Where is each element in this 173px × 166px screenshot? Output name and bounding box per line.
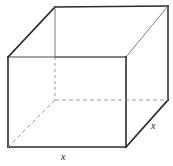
edge-back-top [55,6,168,7]
cube-drawing [0,0,173,166]
edge-bottom-right-diagonal [126,100,168,147]
label-right-edge-x: x [151,121,155,131]
label-bottom-edge-x: x [61,152,65,162]
edge-top-left-diagonal [8,7,55,57]
edge-top-right-diagonal [126,6,168,57]
edge-hidden-bottom-left-diagonal [8,100,55,147]
cube-figure: x x [0,0,173,166]
